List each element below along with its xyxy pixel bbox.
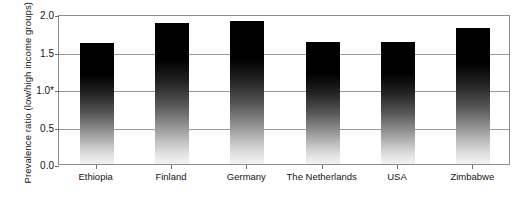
y-axis-tick-label: 2.0 [40, 10, 54, 21]
y-axis-tick-label: 0.0 [40, 160, 54, 171]
bar [155, 23, 189, 164]
x-axis-tick-label: Germany [227, 171, 266, 182]
bar [306, 42, 340, 164]
x-axis-tick-label: Zimbabwe [450, 171, 494, 182]
y-axis-tick-label: 0.5 [40, 122, 54, 133]
x-axis-tick-mark [472, 165, 473, 169]
bar-group [59, 16, 509, 164]
x-axis-tick-mark [246, 165, 247, 169]
x-axis-tick-mark [96, 165, 97, 169]
bar [381, 42, 415, 164]
x-axis-tick-label: Finland [155, 171, 186, 182]
bar-chart-figure: Prevalence ratio (low/high income groups… [0, 0, 526, 208]
y-axis-tick-label-group: 2.01.51.0*0.50.0 [18, 0, 54, 208]
x-axis-tick-mark [397, 165, 398, 169]
caption-strip [0, 198, 526, 208]
plot-area [58, 15, 510, 165]
bar [230, 21, 264, 164]
x-axis-tick-mark [322, 165, 323, 169]
x-axis-tick-label-group: EthiopiaFinlandGermanyThe NetherlandsUSA… [58, 165, 510, 195]
bar [456, 28, 490, 164]
x-axis-tick-label: USA [387, 171, 407, 182]
x-axis-tick-label: The Netherlands [287, 171, 357, 182]
bar [80, 43, 114, 164]
x-axis-tick-mark [171, 165, 172, 169]
x-axis-tick-label: Ethiopia [78, 171, 112, 182]
y-axis-tick-label: 1.5 [40, 47, 54, 58]
y-axis-tick-label: 1.0* [36, 85, 54, 96]
